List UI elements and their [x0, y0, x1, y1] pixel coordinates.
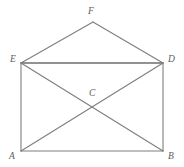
vertex-label-C: C [89, 89, 96, 99]
edge-E-F [21, 22, 93, 63]
geometric-figure-canvas: F E D C A B [0, 0, 184, 167]
vertex-label-A: A [9, 152, 15, 162]
edge-F-D [93, 22, 163, 63]
vertex-label-E: E [10, 55, 16, 65]
vertex-label-F: F [88, 7, 94, 17]
vertex-label-D: D [168, 55, 175, 65]
figure-svg [0, 0, 184, 167]
vertex-label-B: B [168, 152, 174, 162]
